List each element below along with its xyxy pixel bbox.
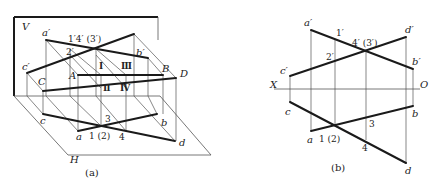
label-D: D [179, 68, 188, 79]
label-b: b [161, 117, 167, 128]
line-c-prime-d-prime-b [290, 37, 406, 76]
label-1-2-b: 1 (2) [319, 134, 340, 144]
label-d: d [179, 137, 185, 148]
label-4-3-prime-b: 4′ (3′) [352, 38, 377, 48]
label-roman-III: Ⅲ [121, 61, 132, 71]
label-roman-IV: Ⅳ [120, 83, 131, 93]
label-A: A [68, 70, 76, 81]
panel-b: a′ 1′ 4′ (3′) d′ 2′ b′ c′ X O c b 3 a 1 … [269, 17, 428, 176]
label-h-plane: H [69, 154, 79, 165]
label-3-b: 3 [369, 119, 375, 129]
label-1-2: 1 (2) [89, 131, 110, 141]
label-v-plane: V [22, 21, 31, 32]
label-2-prime-b: 2′ [326, 52, 334, 62]
line-ab-b [311, 106, 413, 131]
label-a-b: a [307, 134, 313, 145]
label-4: 4 [119, 132, 125, 142]
label-1-prime-b: 1′ [336, 28, 344, 38]
label-x-axis: X [269, 79, 278, 90]
label-3: 3 [105, 114, 111, 124]
label-o-origin: O [420, 79, 428, 90]
label-2-prime: 2′ [66, 47, 74, 57]
projection-diagram: V H a′ b′ c′ 2′ 1′4′ (3′) A B C D Ⅰ Ⅲ Ⅱ … [0, 0, 434, 186]
label-b-prime-b: b′ [412, 56, 421, 67]
label-d-prime-b: d′ [405, 24, 414, 35]
label-4-b: 4 [362, 143, 368, 153]
caption-b: (b) [331, 162, 345, 173]
label-roman-I: Ⅰ [99, 61, 103, 71]
label-c-prime-b: c′ [280, 65, 289, 76]
label-C: C [38, 76, 46, 87]
label-a-prime: a′ [42, 27, 51, 38]
panel-a: V H a′ b′ c′ 2′ 1′4′ (3′) A B C D Ⅰ Ⅲ Ⅱ … [14, 17, 211, 178]
label-1-4-3-prime: 1′4′ (3′) [68, 34, 101, 44]
label-B: B [161, 63, 169, 74]
caption-a: (a) [85, 167, 99, 178]
label-c-b: c [285, 106, 291, 117]
label-a-prime-b: a′ [304, 17, 313, 28]
label-c-prime: c′ [22, 61, 31, 72]
label-b-b: b [412, 108, 418, 119]
label-roman-II: Ⅱ [103, 83, 111, 93]
thick-lines-a [27, 34, 176, 141]
label-b-prime: b′ [136, 47, 145, 58]
label-d-b: d [405, 165, 411, 176]
label-c: c [40, 115, 46, 126]
label-a: a [76, 131, 82, 142]
